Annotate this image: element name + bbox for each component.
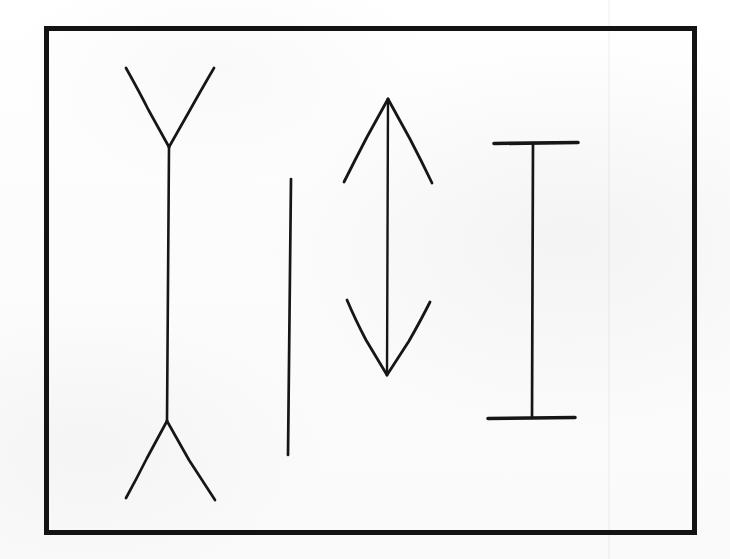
illusion-figure-page: Muller-Lyer Illusion Figures [0,0,730,559]
figure-3-double-headed-arrow [344,99,432,375]
figure-4-top-crossbar [494,143,578,144]
figure-3-shaft [387,99,388,375]
line-drawing-canvas [0,0,730,559]
figure-3-bottom-right-arrow-fin [387,302,430,375]
figure-1-bottom-left-fin [126,421,167,498]
figure-1-top-left-fin [126,68,169,147]
figure-3-top-left-arrow-fin [344,99,388,182]
figure-3-top-right-arrow-fin [388,99,432,183]
figure-1-outward-fins [126,68,215,500]
figure-2-shaft [288,179,291,455]
outer-rectangle-border [47,29,695,533]
figure-4-bottom-crossbar [488,418,575,419]
figure-3-bottom-left-arrow-fin [347,300,387,375]
figure-4-shaft [532,143,533,418]
figure-1-bottom-right-fin [167,421,215,500]
figure-2-plain-line [288,179,291,455]
figure-4-i-beam [488,143,578,419]
figure-1-top-right-fin [169,68,214,147]
figure-1-shaft [167,147,169,421]
